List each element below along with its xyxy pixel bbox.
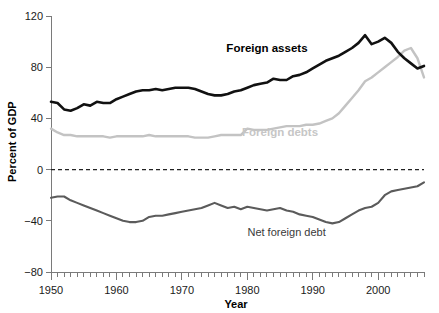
y-axis-title: Percent of GDP: [6, 101, 18, 182]
y-axis-tick-label: −40: [24, 215, 43, 227]
chart-container: 12080400−40−80195019601970198019902000 P…: [0, 0, 439, 313]
axes-group: [46, 16, 424, 280]
x-axis-tick-label: 1980: [235, 284, 259, 296]
x-axis-tick-label: 1970: [170, 284, 194, 296]
x-axis-tick-label: 1990: [301, 284, 325, 296]
tick-labels-group: 12080400−40−80195019601970198019902000: [24, 10, 390, 296]
series-group: [51, 35, 424, 223]
x-axis-tick-label: 2000: [366, 284, 390, 296]
x-axis-title: Year: [224, 298, 248, 310]
y-axis-tick-label: 40: [31, 112, 43, 124]
x-axis-tick-label: 1950: [39, 284, 63, 296]
series-line-foreign-debts: [51, 48, 424, 138]
y-axis-tick-label: −80: [24, 266, 43, 278]
series-label-net-foreign-debt: Net foreign debt: [247, 226, 325, 238]
series-label-foreign-debts: Foreign debts: [242, 126, 318, 138]
y-axis-tick-label: 120: [25, 10, 43, 22]
series-label-foreign-assets: Foreign assets: [226, 42, 307, 54]
y-axis-tick-label: 0: [37, 164, 43, 176]
y-axis-tick-label: 80: [31, 61, 43, 73]
series-line-net-foreign-debt: [51, 182, 424, 223]
x-axis-tick-label: 1960: [104, 284, 128, 296]
line-chart: 12080400−40−80195019601970198019902000 P…: [0, 0, 439, 313]
